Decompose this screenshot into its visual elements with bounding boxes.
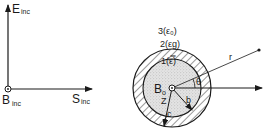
- radius-c-label: c: [167, 109, 172, 119]
- diagram-canvas: Einc Binc Sinc 3(ε₀) 2(εg) 1(ε̿) Bo Z b …: [0, 0, 268, 138]
- z-axis-label: Z: [161, 96, 167, 106]
- ray-r-label: r: [229, 52, 232, 62]
- cylinder-cross-section: 3(ε₀) 2(εg) 1(ε̿) Bo Z b c r θ: [133, 26, 262, 127]
- e-inc-label: Einc: [12, 2, 30, 16]
- region-2-label: 2(εg): [160, 39, 180, 49]
- radius-b-label: b: [186, 95, 191, 105]
- region-1-label: 1(ε̿): [161, 55, 176, 66]
- theta-label: θ: [196, 77, 201, 87]
- incident-field-axes: Einc Binc Sinc: [2, 2, 92, 107]
- s-inc-label: Sinc: [72, 92, 90, 106]
- b-inc-label: Binc: [2, 93, 21, 107]
- observation-point: [257, 48, 260, 51]
- region-3-label: 3(ε₀): [158, 26, 177, 36]
